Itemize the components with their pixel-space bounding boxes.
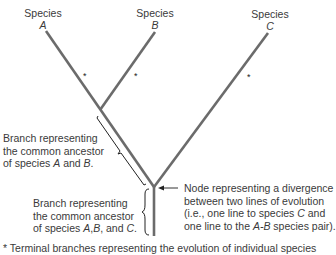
annotation-line: of species A and B. [3, 157, 104, 170]
annotation-line: the common ancestor [3, 145, 104, 158]
annotation-line: between two lines of evolution [184, 195, 336, 208]
species-letter: C [240, 20, 300, 32]
arrowhead-icon [158, 186, 164, 191]
annotation-node: Node representing a divergence between t… [184, 182, 336, 232]
species-label-b: Species B [125, 7, 185, 31]
terminal-marker-c: * [247, 73, 251, 82]
footnote: * Terminal branches representing the evo… [3, 242, 316, 255]
species-label-c: Species C [240, 8, 300, 32]
annotation-line: (i.e., one line to species C and [184, 207, 336, 220]
species-prefix: Species [136, 7, 173, 19]
branch-species-c [154, 33, 268, 187]
annotation-ab-branch: Branch representing the common ancestor … [3, 132, 104, 170]
terminal-marker-b: * [134, 72, 138, 81]
species-prefix: Species [24, 7, 61, 19]
bracket-ab-branch [97, 116, 146, 185]
species-label-a: Species A [13, 7, 73, 31]
bracket-abc-branch [142, 189, 149, 235]
annotation-line: Node representing a divergence [184, 182, 336, 195]
branch-species-b [100, 32, 155, 110]
annotation-line: Branch representing [3, 132, 104, 145]
terminal-marker-a: * [83, 72, 87, 81]
species-letter: B [125, 19, 185, 31]
annotation-abc-branch: Branch representing the common ancestor … [33, 197, 137, 235]
annotation-line: one line to the A-B species pair). [184, 220, 336, 233]
annotation-line: Branch representing [33, 197, 137, 210]
species-prefix: Species [251, 8, 288, 20]
species-letter: A [13, 19, 73, 31]
annotation-line: of species A,B, and C. [33, 222, 137, 235]
annotation-line: the common ancestor [33, 210, 137, 223]
